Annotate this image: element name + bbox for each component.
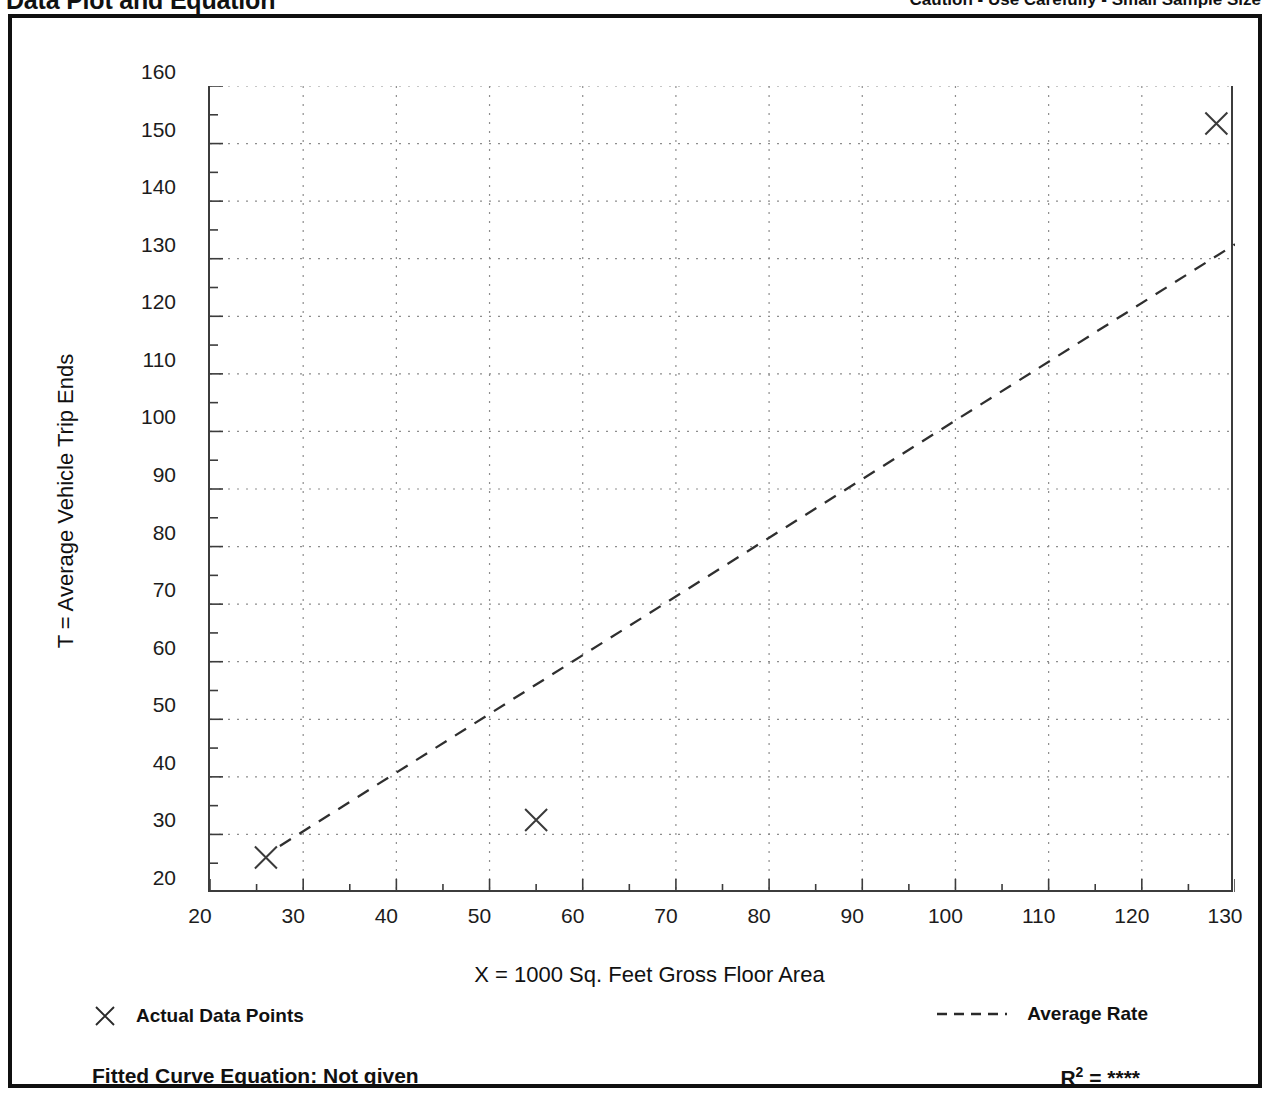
legend-actual-data-points-label: Actual Data Points <box>136 1005 304 1027</box>
y-tick-label: 100 <box>116 405 176 429</box>
x-tick-label: 110 <box>1009 904 1069 928</box>
x-tick-label: 90 <box>822 904 882 928</box>
y-tick-label: 20 <box>116 866 176 890</box>
y-tick-label: 130 <box>116 233 176 257</box>
fitted-curve-equation: Fitted Curve Equation: Not given <box>92 1064 419 1088</box>
x-tick-label: 100 <box>915 904 975 928</box>
y-tick-label: 60 <box>116 636 176 660</box>
x-tick-label: 20 <box>170 904 230 928</box>
x-tick-label: 70 <box>636 904 696 928</box>
x-tick-label: 80 <box>729 904 789 928</box>
data-point-marker <box>1205 112 1227 134</box>
y-axis-title: T = Average Vehicle Trip Ends <box>53 201 79 801</box>
x-marker-icon <box>92 1003 118 1029</box>
y-tick-label: 140 <box>116 175 176 199</box>
caution-note: Caution - Use Carefully - Small Sample S… <box>910 0 1261 10</box>
y-tick-label: 120 <box>116 290 176 314</box>
x-tick-label: 130 <box>1195 904 1255 928</box>
dashed-line-icon <box>935 1007 1009 1021</box>
y-tick-label: 90 <box>116 463 176 487</box>
r-squared-prefix: R <box>1060 1066 1075 1089</box>
x-axis-title: X = 1000 Sq. Feet Gross Floor Area <box>12 962 1275 988</box>
plot-frame: T = Average Vehicle Trip Ends 2030405060… <box>8 14 1262 1088</box>
x-tick-label: 60 <box>543 904 603 928</box>
y-tick-label: 110 <box>116 348 176 372</box>
r-squared-equals: = <box>1083 1066 1107 1089</box>
y-tick-label: 150 <box>116 118 176 142</box>
y-tick-label: 40 <box>116 751 176 775</box>
data-point-marker <box>525 809 547 831</box>
data-point-markers <box>255 112 1227 868</box>
x-tick-label: 120 <box>1102 904 1162 928</box>
y-tick-label: 160 <box>116 60 176 84</box>
grid-lines <box>210 86 1235 892</box>
r-squared-stars: **** <box>1107 1066 1140 1089</box>
y-tick-label: 30 <box>116 808 176 832</box>
legend-average-rate-label: Average Rate <box>1027 1003 1148 1025</box>
legend-average-rate: Average Rate <box>935 1003 1148 1025</box>
r-squared-value: R2 = **** <box>1060 1064 1140 1090</box>
plot-area <box>208 86 1233 892</box>
legend-actual-data-points: Actual Data Points <box>92 1003 304 1029</box>
page-title: Data Plot and Equation <box>6 0 275 15</box>
x-tick-label: 50 <box>450 904 510 928</box>
y-tick-label: 80 <box>116 521 176 545</box>
y-tick-label: 70 <box>116 578 176 602</box>
y-tick-label: 50 <box>116 693 176 717</box>
average-rate-line <box>280 244 1235 846</box>
x-tick-label: 40 <box>356 904 416 928</box>
scatter-plot-canvas <box>210 86 1235 892</box>
data-point-marker <box>255 846 277 868</box>
x-tick-label: 30 <box>263 904 323 928</box>
